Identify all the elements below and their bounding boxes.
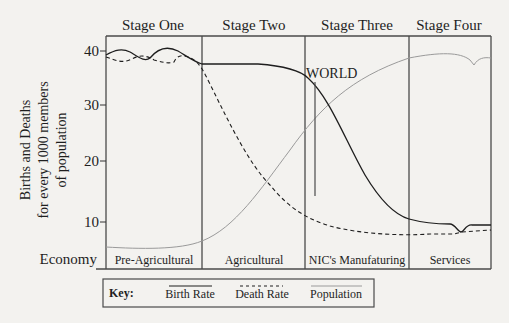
y-tick-30: 30 bbox=[84, 97, 99, 113]
y-label-line-3: of population bbox=[54, 112, 69, 187]
death-rate-curve bbox=[106, 56, 491, 235]
y-tick-20: 20 bbox=[84, 153, 99, 169]
legend-title: Key: bbox=[109, 286, 134, 300]
legend-key: Key: Birth Rate Death Rate Population bbox=[103, 279, 374, 307]
y-tick-40: 40 bbox=[84, 43, 99, 59]
stage-header-3: Stage Three bbox=[321, 17, 393, 33]
legend-population-label: Population bbox=[310, 287, 362, 301]
y-label-line-2: for every 1000 members bbox=[36, 81, 51, 218]
demographic-transition-diagram: Stage One Stage Two Stage Three Stage Fo… bbox=[0, 0, 509, 323]
plot-frame bbox=[96, 36, 491, 269]
world-annotation: WORLD bbox=[306, 66, 357, 81]
legend-death-label: Death Rate bbox=[235, 287, 289, 301]
birth-rate-curve bbox=[106, 48, 491, 232]
economy-label: Economy bbox=[40, 251, 98, 267]
economy-stage-2: Agricultural bbox=[225, 253, 284, 267]
economy-stage-4: Services bbox=[430, 253, 471, 267]
stage-header-2: Stage Two bbox=[222, 17, 285, 33]
y-axis-label: Births and Deaths for every 1000 members… bbox=[18, 81, 69, 218]
stage-header-1: Stage One bbox=[122, 17, 184, 33]
y-label-line-1: Births and Deaths bbox=[18, 100, 33, 200]
legend-birth-label: Birth Rate bbox=[165, 287, 215, 301]
economy-stage-3: NIC's Manufaturing bbox=[309, 253, 405, 267]
y-axis bbox=[100, 51, 106, 222]
economy-stage-1: Pre-Agricultural bbox=[115, 253, 194, 267]
stage-header-4: Stage Four bbox=[416, 17, 481, 33]
population-curve bbox=[106, 54, 491, 249]
y-tick-10: 10 bbox=[84, 214, 99, 230]
